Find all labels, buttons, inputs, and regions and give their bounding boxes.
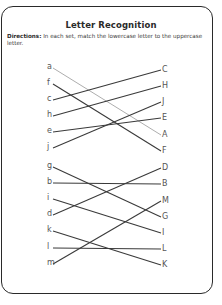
lowercase-letter-b: b [47, 178, 52, 186]
uppercase-letter-E: E [162, 114, 167, 122]
uppercase-letter-K: K [162, 261, 167, 269]
uppercase-letter-L: L [162, 245, 166, 253]
lowercase-letter-j: j [47, 143, 49, 151]
match-line-i-I [53, 199, 161, 233]
uppercase-letter-C: C [162, 66, 168, 74]
uppercase-letter-G: G [162, 213, 168, 221]
match-line-b-B [53, 183, 161, 184]
uppercase-letter-B: B [162, 180, 168, 188]
match-line-h-H [53, 86, 161, 116]
lowercase-letter-l: l [47, 243, 49, 251]
lowercase-letter-a: a [47, 63, 52, 71]
lowercase-letter-i: i [47, 194, 49, 202]
lowercase-letter-c: c [47, 95, 51, 103]
match-line-m-M [53, 201, 161, 264]
uppercase-letter-F: F [162, 147, 167, 155]
matching-lines [0, 0, 222, 305]
lowercase-letter-g: g [47, 162, 52, 170]
lowercase-letter-h: h [47, 111, 52, 119]
match-line-l-L [53, 248, 161, 249]
match-line-c-C [53, 70, 161, 100]
lowercase-letter-m: m [47, 259, 55, 267]
uppercase-letter-D: D [162, 164, 168, 172]
uppercase-letter-J: J [162, 98, 164, 106]
lowercase-letter-k: k [47, 226, 52, 234]
uppercase-letter-M: M [162, 197, 169, 205]
lowercase-letter-d: d [47, 210, 52, 218]
uppercase-letter-A: A [162, 131, 167, 139]
uppercase-letter-H: H [162, 82, 168, 90]
lowercase-letter-e: e [47, 127, 52, 135]
lowercase-letter-f: f [47, 79, 50, 87]
uppercase-letter-I: I [162, 229, 164, 237]
